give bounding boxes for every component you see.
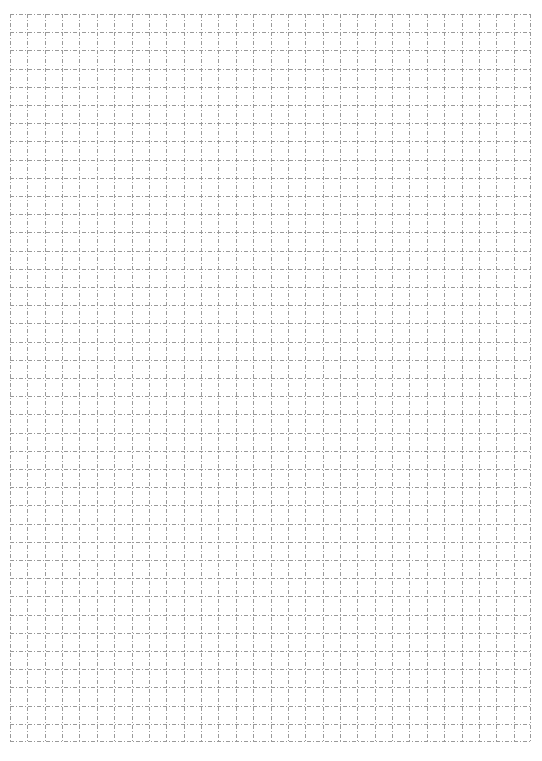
grid-lines: [10, 14, 531, 742]
graph-paper-grid: [10, 14, 531, 742]
page-header-text: — — — — — — — — — —: [22, 0, 191, 5]
